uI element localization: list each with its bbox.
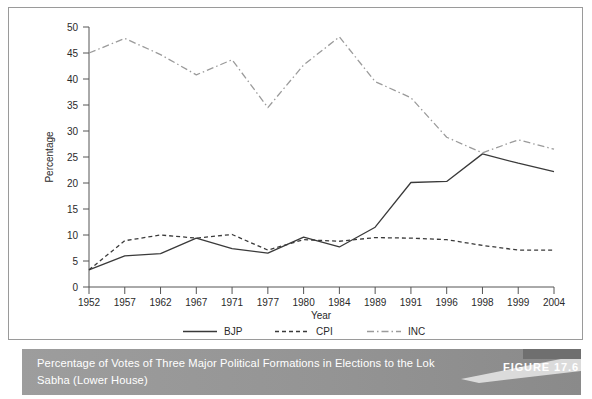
legend-label-cpi: CPI [316, 326, 333, 337]
line-chart: 05101520253035404550 1952195719621967197… [9, 8, 582, 339]
y-tick-label: 15 [67, 204, 79, 215]
x-tick-label: 1971 [221, 297, 244, 308]
x-tick-label: 1996 [436, 297, 459, 308]
legend-label-bjp: BJP [224, 326, 243, 337]
x-tick-label: 1957 [114, 297, 137, 308]
x-tick-label: 1998 [471, 297, 494, 308]
y-tick-label: 25 [67, 152, 79, 163]
series-line-bjp [89, 154, 554, 270]
legend-label-inc: INC [408, 326, 425, 337]
x-tick-label: 1977 [257, 297, 280, 308]
x-tick-label: 1980 [292, 297, 315, 308]
x-tick-label: 1967 [185, 297, 208, 308]
x-tick-label: 1984 [328, 297, 351, 308]
y-tick-label: 20 [67, 178, 79, 189]
y-tick-label: 45 [67, 48, 79, 59]
y-tick-label: 50 [67, 22, 79, 33]
x-tick-label: 1999 [507, 297, 530, 308]
x-tick-label: 1962 [149, 297, 172, 308]
chart-series-group [89, 37, 554, 270]
y-tick-label: 0 [72, 282, 78, 293]
series-line-cpi [89, 234, 554, 269]
figure-caption-bar: Percentage of Votes of Three Major Polit… [22, 349, 581, 395]
x-tick-label: 1989 [364, 297, 387, 308]
figure-caption-text: Percentage of Votes of Three Major Polit… [37, 355, 467, 389]
y-tick-label: 10 [67, 230, 79, 241]
y-tick-label: 30 [67, 126, 79, 137]
figure-page: 05101520253035404550 1952195719621967197… [0, 0, 592, 399]
x-tick-label: 1991 [400, 297, 423, 308]
x-axis-ticks: 1952195719621967197119771980198419891991… [78, 287, 566, 308]
figure-number-label: FIGURE 17.6 [503, 361, 579, 373]
chart-frame: 05101520253035404550 1952195719621967197… [8, 7, 583, 340]
chart-legend: BJPCPIINC [183, 326, 425, 337]
series-line-inc [89, 37, 554, 153]
y-tick-label: 35 [67, 100, 79, 111]
y-axis-title: Percentage [44, 131, 55, 183]
x-axis-title: Year [311, 310, 332, 321]
y-axis-ticks: 05101520253035404550 [67, 22, 89, 293]
y-tick-label: 40 [67, 74, 79, 85]
y-tick-label: 5 [72, 256, 78, 267]
x-tick-label: 1952 [78, 297, 101, 308]
x-tick-label: 2004 [543, 297, 566, 308]
